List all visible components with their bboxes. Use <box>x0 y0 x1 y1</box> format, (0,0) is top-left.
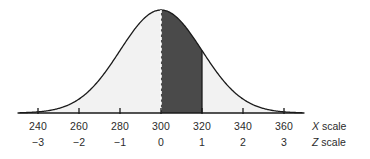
x-scale-tick-label: 340 <box>223 120 263 132</box>
x-scale-tick-label: 300 <box>141 120 181 132</box>
x-scale-tick-label: 260 <box>59 120 99 132</box>
x-scale-symbol: X <box>312 120 319 132</box>
z-scale-tick-label: −3 <box>18 136 58 148</box>
z-scale-legend: Z scale <box>312 136 346 148</box>
x-scale-tick-label: 360 <box>264 120 304 132</box>
z-scale-word: scale <box>321 136 346 148</box>
z-scale-tick-label: −2 <box>59 136 99 148</box>
z-scale-tick-label: −1 <box>100 136 140 148</box>
z-scale-tick-label: 2 <box>223 136 263 148</box>
normal-distribution-figure: 240260280300320340360 −3−2−10123 X scale… <box>0 0 370 159</box>
z-scale-tick-label: 3 <box>264 136 304 148</box>
x-scale-word: scale <box>322 120 347 132</box>
x-scale-tick-label: 320 <box>182 120 222 132</box>
z-scale-symbol: Z <box>312 136 318 148</box>
z-scale-tick-label: 1 <box>182 136 222 148</box>
z-scale-tick-label: 0 <box>141 136 181 148</box>
x-scale-tick-label: 280 <box>100 120 140 132</box>
x-scale-legend: X scale <box>312 120 346 132</box>
x-scale-tick-label: 240 <box>18 120 58 132</box>
